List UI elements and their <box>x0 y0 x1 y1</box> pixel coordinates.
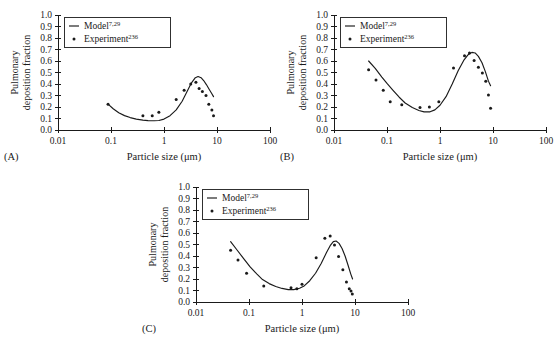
x-tick-label: 10 <box>488 136 498 146</box>
data-point <box>437 100 440 103</box>
y-tick-label: 0.9 <box>178 194 190 204</box>
y-tick-label: 0.3 <box>178 263 190 273</box>
data-point <box>382 89 385 92</box>
legend-c: Model7,29Experiment236 <box>202 189 308 219</box>
x-tick-label: 100 <box>401 308 416 318</box>
experiment-points <box>107 81 215 117</box>
y-tick-label: 0.3 <box>40 91 52 101</box>
y-tick-label: 0.6 <box>316 56 328 66</box>
data-point <box>207 103 210 106</box>
legend-b: Model7,29Experiment236 <box>340 17 446 47</box>
data-point <box>389 100 392 103</box>
x-tick-label: 0.1 <box>381 136 393 146</box>
y-tick-label: 1.0 <box>316 10 328 20</box>
data-point <box>141 114 144 117</box>
data-point <box>477 66 480 69</box>
data-point <box>428 106 431 109</box>
y-tick-label: 0.3 <box>316 91 328 101</box>
y-tick-label: 0.7 <box>178 217 190 227</box>
y-axis-title-line2: deposition fraction <box>297 35 308 110</box>
figure-pulmonary-deposition: 0.00.10.20.30.40.50.60.70.80.91.00.010.1… <box>0 0 556 346</box>
y-tick-label: 0.9 <box>40 22 52 32</box>
y-tick-label: 0.1 <box>316 114 328 124</box>
panel-label-a: (A) <box>4 151 19 163</box>
chart-panel-b: 0.00.10.20.30.40.50.60.70.80.91.00.010.1… <box>276 0 554 170</box>
experiment-points <box>367 51 492 109</box>
data-point <box>489 107 492 110</box>
y-axis-title: Pulmonarydeposition fraction <box>285 35 308 110</box>
model-curve <box>108 77 213 121</box>
y-tick-label: 0.5 <box>40 68 52 78</box>
x-axis-title: Particle size (μm) <box>403 151 478 163</box>
x-axis-title: Particle size (μm) <box>127 151 202 163</box>
x-tick-label: 0.01 <box>50 136 67 146</box>
model-curve <box>369 52 491 111</box>
data-point <box>484 80 487 83</box>
y-tick-label: 0.7 <box>316 45 328 55</box>
x-tick-label: 10 <box>350 308 360 318</box>
data-point <box>301 283 304 286</box>
y-tick-label: 0.5 <box>316 68 328 78</box>
data-point <box>400 103 403 106</box>
chart-panel-a: 0.00.10.20.30.40.50.60.70.80.91.00.010.1… <box>0 0 278 170</box>
x-tick-label: 1 <box>438 136 443 146</box>
y-tick-label: 0.9 <box>316 22 328 32</box>
y-tick-label: 0.8 <box>178 205 190 215</box>
data-point <box>205 94 208 97</box>
data-point <box>329 234 332 237</box>
y-tick-label: 0.1 <box>40 114 52 124</box>
x-tick-label: 0.1 <box>243 308 255 318</box>
data-point <box>245 272 248 275</box>
y-tick-label: 0.0 <box>40 125 52 135</box>
legend-model-superscript: 7,29 <box>247 192 258 199</box>
x-tick-label: 1 <box>162 136 167 146</box>
chart-svg-a: 0.00.10.20.30.40.50.60.70.80.91.00.010.1… <box>0 0 278 172</box>
data-point <box>262 284 265 287</box>
chart-svg-b: 0.00.10.20.30.40.50.60.70.80.91.00.010.1… <box>276 0 554 172</box>
legend-experiment-superscript: 236 <box>404 33 415 40</box>
y-axis-title-line2: deposition fraction <box>159 207 170 282</box>
y-tick-label: 0.6 <box>178 228 190 238</box>
y-tick-label: 0.4 <box>178 251 190 261</box>
y-tick-label: 0.8 <box>40 33 52 43</box>
legend-experiment-dot-swatch <box>211 210 214 213</box>
data-point <box>107 103 110 106</box>
x-tick-label: 0.1 <box>105 136 117 146</box>
y-tick-label: 1.0 <box>40 10 52 20</box>
data-point <box>175 98 178 101</box>
model-curve <box>231 241 353 290</box>
data-point <box>210 108 213 111</box>
y-tick-label: 0.7 <box>40 45 52 55</box>
legend-experiment-dot-swatch <box>73 38 76 41</box>
y-axis-title-line2: deposition fraction <box>21 35 32 110</box>
y-tick-label: 0.5 <box>178 240 190 250</box>
data-point <box>333 244 336 247</box>
data-point <box>237 259 240 262</box>
data-point <box>290 286 293 289</box>
data-point <box>157 111 160 114</box>
y-tick-label: 0.0 <box>178 297 190 307</box>
y-tick-label: 0.2 <box>178 274 190 284</box>
panel-label-c: (C) <box>142 323 157 335</box>
x-tick-label: 10 <box>212 136 222 146</box>
x-tick-label: 0.01 <box>326 136 343 146</box>
y-axis-title-line1: Pulmonary <box>285 51 296 95</box>
y-tick-label: 0.8 <box>316 33 328 43</box>
chart-panel-c: 0.00.10.20.30.40.50.60.70.80.91.00.010.1… <box>138 172 416 344</box>
y-tick-label: 0.4 <box>40 79 52 89</box>
data-point <box>341 268 344 271</box>
data-point <box>481 72 484 75</box>
legend-model-superscript: 7,29 <box>385 20 396 27</box>
data-point <box>337 255 340 258</box>
data-point <box>419 106 422 109</box>
data-point <box>201 90 204 93</box>
y-tick-label: 0.4 <box>316 79 328 89</box>
legend-experiment-superscript: 236 <box>266 205 277 212</box>
chart-svg-c: 0.00.10.20.30.40.50.60.70.80.91.00.010.1… <box>138 172 416 344</box>
y-tick-label: 0.1 <box>178 286 190 296</box>
data-point <box>151 114 154 117</box>
data-point <box>452 66 455 69</box>
legend-a: Model7,29Experiment236 <box>64 17 170 47</box>
y-axis-title: Pulmonarydeposition fraction <box>9 35 32 110</box>
data-point <box>463 54 466 57</box>
